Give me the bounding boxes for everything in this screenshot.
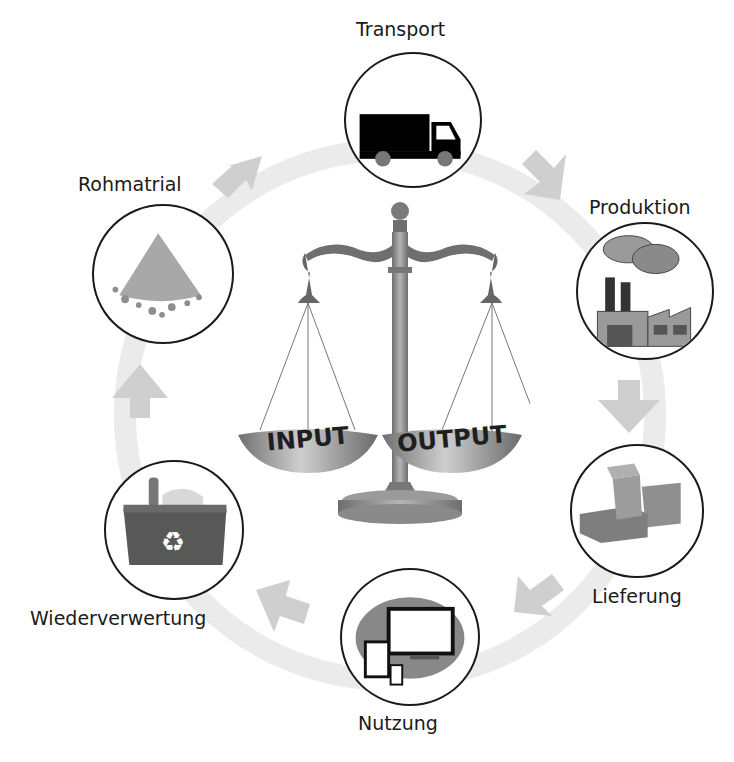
stage-wiederverwertung: ♻ [104, 460, 244, 600]
lifecycle-diagram: INPUT OUTPUT Transport Produktion [0, 0, 734, 762]
stage-label-rohmatrial: Rohmatrial [78, 173, 182, 195]
stage-label-lieferung: Lieferung [592, 585, 682, 607]
stage-label-produktion: Produktion [589, 196, 691, 218]
stage-label-wiederverwertung: Wiederverwertung [30, 607, 206, 629]
truck-icon [346, 54, 480, 186]
stage-produktion [576, 222, 714, 360]
arrow-icon [256, 580, 310, 632]
stage-lieferung [570, 444, 704, 578]
stage-nutzung [340, 568, 480, 706]
arrow-icon [522, 150, 566, 200]
material-pile-icon [94, 206, 232, 342]
recycle-icon: ♻ [160, 526, 184, 557]
devices-icon [342, 570, 478, 704]
stage-transport [344, 52, 482, 188]
balance-scale: INPUT OUTPUT [230, 195, 530, 535]
factory-icon [578, 224, 712, 358]
stage-label-nutzung: Nutzung [358, 712, 438, 734]
stage-rohmatrial [92, 204, 234, 344]
boxes-icon [572, 446, 702, 576]
stage-label-transport: Transport [356, 18, 445, 40]
recycle-bin-icon: ♻ [106, 462, 242, 598]
